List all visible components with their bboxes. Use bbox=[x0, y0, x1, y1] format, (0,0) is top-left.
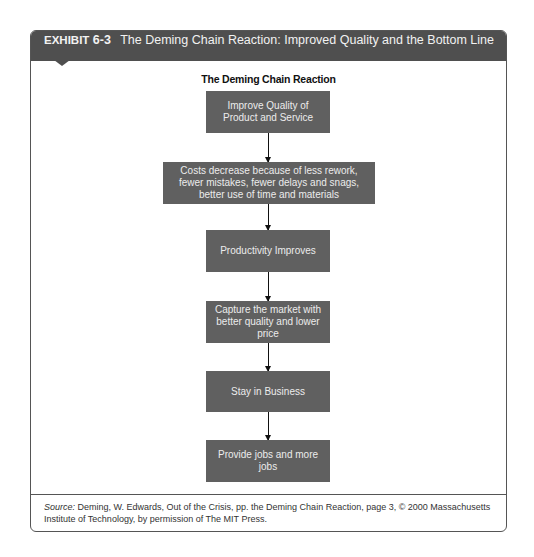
source-divider bbox=[31, 494, 506, 495]
step-box-capture-market: Capture the market with better quality a… bbox=[206, 301, 330, 343]
exhibit-frame: EXHIBIT 6-3 The Deming Chain Reaction: I… bbox=[30, 30, 507, 532]
arrow-down-icon bbox=[268, 204, 269, 230]
arrow-down-icon bbox=[268, 412, 269, 440]
exhibit-label: EXHIBIT bbox=[44, 34, 89, 46]
step-box-provide-jobs: Provide jobs and more jobs bbox=[206, 440, 330, 482]
step-box-stay-in-business: Stay in Business bbox=[206, 371, 330, 412]
source-note: Source: Deming, W. Edwards, Out of the C… bbox=[44, 501, 496, 525]
exhibit-number: 6-3 bbox=[93, 33, 111, 47]
step-box-improve-quality: Improve Quality of Product and Service bbox=[206, 91, 330, 133]
source-label: Source: bbox=[44, 502, 75, 512]
header-notch-icon bbox=[54, 60, 70, 66]
arrow-down-icon bbox=[268, 133, 269, 162]
exhibit-title: The Deming Chain Reaction: Improved Qual… bbox=[120, 33, 494, 47]
arrow-down-icon bbox=[268, 272, 269, 301]
step-box-costs-decrease: Costs decrease because of less rework, f… bbox=[163, 162, 375, 204]
source-text: Deming, W. Edwards, Out of the Crisis, p… bbox=[44, 502, 490, 524]
diagram-title: The Deming Chain Reaction bbox=[31, 73, 506, 85]
arrow-down-icon bbox=[268, 343, 269, 371]
step-box-productivity: Productivity Improves bbox=[206, 230, 330, 272]
exhibit-header: EXHIBIT 6-3 The Deming Chain Reaction: I… bbox=[31, 31, 506, 61]
